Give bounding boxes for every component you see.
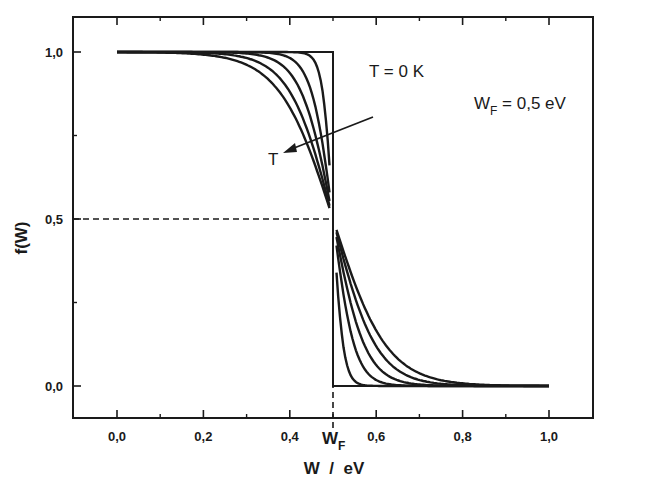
y-tick-label: 1,0 [45,45,63,60]
x-tick-label: 0,0 [108,429,126,444]
wf-value: = 0,5 eV [497,94,566,113]
y-axis-title: f(W) [12,221,31,254]
fermi-energy-annotation: WF = 0,5 eV [474,94,567,118]
svg-text:WF = 0,5 eV: WF = 0,5 eV [474,94,567,118]
wf-axis-label: WF [322,429,345,453]
wf-subscript: F [490,104,497,118]
temperature-label: T [268,150,278,169]
fermi-dirac-chart: 0,00,20,40,60,81,00,00,51,0 f(W) W / eV … [0,0,654,488]
reference-lines [73,219,333,428]
svg-text:WF: WF [322,429,345,453]
wf-label: W [474,94,490,113]
x-tick-label: 0,8 [454,429,472,444]
x-axis-title: W / eV [304,459,365,478]
wf-tick-sub: F [338,439,345,453]
x-tick-label: 0,4 [281,429,300,444]
t0-annotation: T = 0 K [369,62,425,81]
y-tick-label: 0,0 [45,379,63,394]
y-tick-label: 0,5 [45,212,63,227]
wf-tick-main: W [322,429,339,448]
x-tick-label: 1,0 [540,429,558,444]
chart-svg: 0,00,20,40,60,81,00,00,51,0 f(W) W / eV … [0,0,654,488]
axis-ticks: 0,00,20,40,60,81,00,00,51,0 [45,17,558,444]
arrow-head-icon [283,143,297,153]
x-tick-label: 0,2 [194,429,212,444]
x-tick-label: 0,6 [367,429,385,444]
